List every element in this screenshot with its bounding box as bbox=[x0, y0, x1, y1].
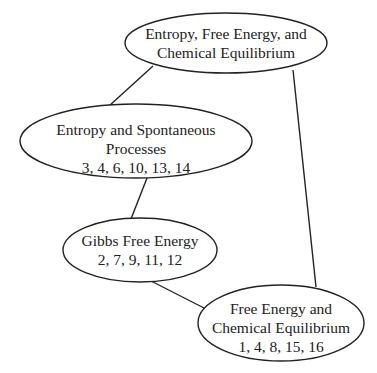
node-root-line-1: Entropy, Free Energy, and bbox=[145, 25, 307, 42]
node-gibbs: Gibbs Free Energy 2, 7, 9, 11, 12 bbox=[63, 218, 217, 282]
node-equilibrium-line-2: Chemical Equilibrium bbox=[212, 319, 350, 336]
node-gibbs-line-1: Gibbs Free Energy bbox=[82, 232, 199, 249]
node-root: Entropy, Free Energy, and Chemical Equil… bbox=[125, 13, 327, 73]
node-equilibrium-line-1: Free Energy and bbox=[230, 300, 332, 317]
node-gibbs-refs: 2, 7, 9, 11, 12 bbox=[98, 251, 183, 268]
node-entropy-refs: 3, 4, 6, 10, 13, 14 bbox=[82, 159, 191, 176]
node-root-line-2: Chemical Equilibrium bbox=[157, 44, 295, 61]
edge-root-equilibrium bbox=[293, 70, 316, 287]
node-entropy-line-2: Processes bbox=[106, 140, 166, 157]
node-equilibrium: Free Energy and Chemical Equilibrium 1, … bbox=[198, 285, 364, 361]
edge-gibbs-equilibrium bbox=[151, 281, 206, 309]
node-entropy: Entropy and Spontaneous Processes 3, 4, … bbox=[20, 104, 252, 178]
node-entropy-line-1: Entropy and Spontaneous bbox=[56, 121, 215, 138]
edge-entropy-gibbs bbox=[131, 178, 147, 219]
concept-map: Entropy, Free Energy, and Chemical Equil… bbox=[0, 0, 377, 373]
edge-root-entropy bbox=[109, 66, 153, 106]
node-equilibrium-refs: 1, 4, 8, 15, 16 bbox=[238, 338, 324, 355]
